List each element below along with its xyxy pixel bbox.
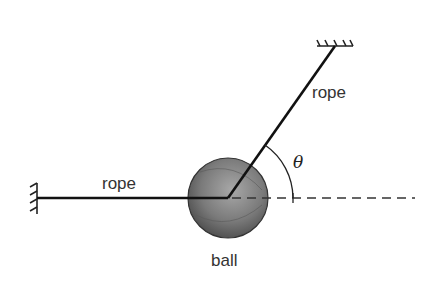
- left-wall-anchor: [30, 183, 37, 214]
- ceiling-anchor: [317, 40, 353, 46]
- upper-rope-label: rope: [312, 83, 346, 102]
- angle-label: θ: [293, 152, 303, 172]
- angle-arc: [265, 145, 293, 198]
- left-rope-label: rope: [102, 174, 136, 193]
- diagram-canvas: rope rope ball θ: [0, 0, 435, 295]
- ball-label: ball: [211, 251, 237, 270]
- upper-rope: [228, 46, 335, 198]
